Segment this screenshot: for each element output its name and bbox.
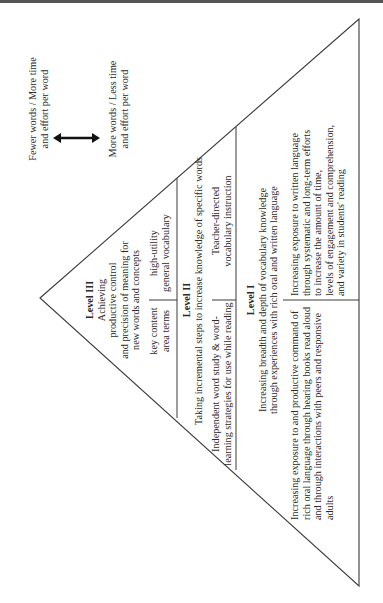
level-2-header: Level II Taking incremental steps to inc…: [181, 175, 204, 425]
level-2-right-cell: Teacher-directed vocabulary instruction: [210, 146, 233, 296]
level-1-title: Level I: [245, 155, 257, 445]
scale-bottom-label: More words / Less time and effort per wo…: [107, 34, 130, 184]
double-headed-arrow-icon: [53, 133, 100, 143]
level-3-title: Level III: [84, 230, 96, 370]
level-2-title: Level II: [181, 175, 193, 425]
level-1-right-cell: Increasing exposure to written language …: [289, 81, 347, 296]
level-1-left-cell: Increasing exposure to and productive co…: [289, 305, 335, 520]
level-2-left-cell: Independent word study & word- learning …: [210, 298, 233, 470]
level-3-header: Level III Achieving productive control a…: [84, 230, 142, 370]
level-3-left-cell: key content area terms: [148, 302, 171, 360]
scale-top-label: Fewer words / More time and effort per w…: [27, 34, 50, 184]
level-1-header: Level I Increasing breadth and depth of …: [245, 155, 280, 445]
level-3-right-cell: high-utility general vocabulary: [148, 208, 171, 298]
